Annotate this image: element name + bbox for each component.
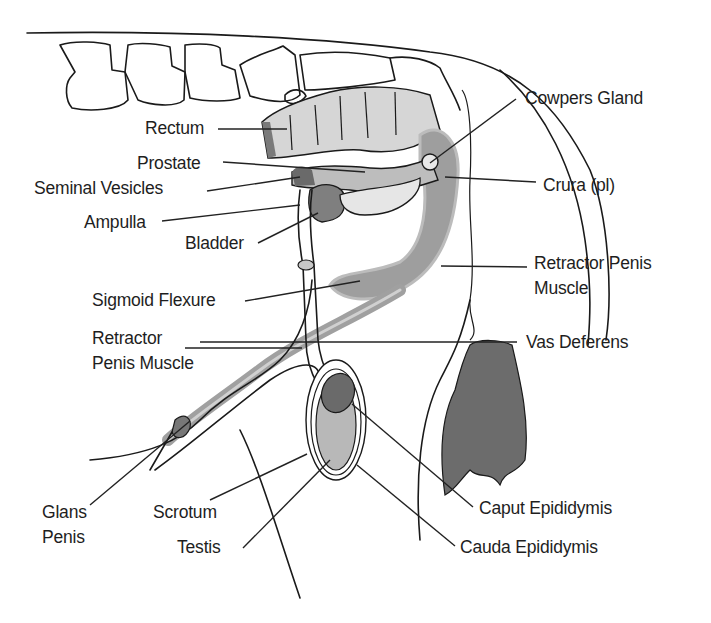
label-bladder: Bladder [185,231,244,256]
label-retractor-penis-muscle-right: Retractor Penis Muscle [534,251,652,301]
label-rectum: Rectum [145,116,204,141]
label-retractor-penis-muscle-left: Retractor Penis Muscle [92,326,194,376]
bladder-shape [309,185,345,222]
label-caput-epididymis: Caput Epididymis [479,496,612,521]
label-testis: Testis [177,535,221,560]
label-cauda-epididymis: Cauda Epididymis [460,535,598,560]
tail-switch-shape [442,340,526,495]
label-prostate: Prostate [137,151,201,176]
crura-shape [330,130,458,299]
label-sigmoid-flexure: Sigmoid Flexure [92,288,215,313]
rectum-shape [262,87,440,158]
tail-inner-outline [500,70,590,345]
label-glans-penis: Glans Penis [42,500,87,550]
label-scrotum: Scrotum [153,500,217,525]
label-cowpers-gland: Cowpers Gland [525,86,643,111]
label-vas-deferens: Vas Deferens [526,330,628,355]
label-seminal-vesicles: Seminal Vesicles [34,176,163,201]
cowpers-gland-shape [422,154,438,170]
label-ampulla: Ampulla [84,210,146,235]
anatomy-diagram: Rectum Prostate Seminal Vesicles Ampulla… [0,0,711,623]
label-crura: Crura (pl) [543,173,615,198]
